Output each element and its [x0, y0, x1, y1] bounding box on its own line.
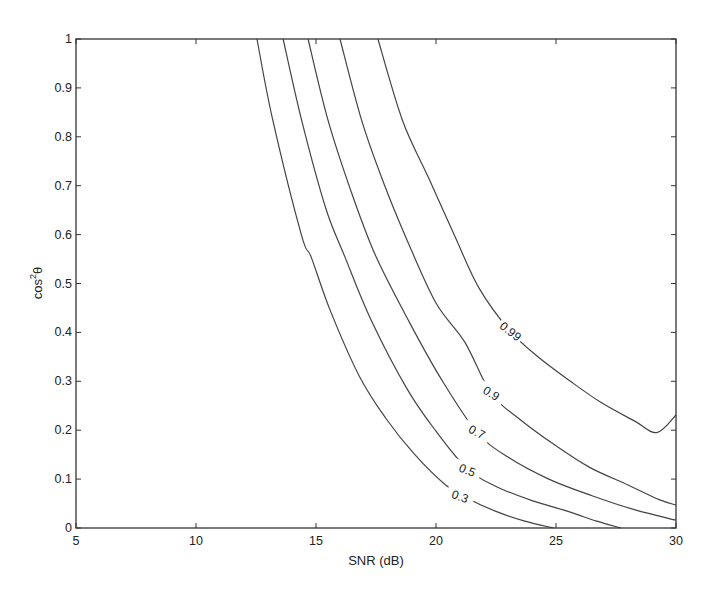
y-tick-label: 0 — [65, 521, 72, 535]
y-tick-label: 0.8 — [55, 130, 72, 144]
contour-line-0_7 — [308, 39, 676, 520]
x-axis-label: SNR (dB) — [348, 553, 404, 568]
contour-line-0_3 — [257, 39, 554, 528]
contour-line-0_99 — [378, 39, 676, 433]
y-tick-label: 0.5 — [55, 277, 72, 291]
contour-line-0_5 — [283, 39, 621, 528]
x-tick-label: 30 — [669, 534, 683, 548]
x-tick-label: 20 — [429, 534, 443, 548]
y-axis-ticks: 00.10.20.30.40.50.60.70.80.91 — [55, 32, 676, 535]
plot-frame — [76, 39, 676, 528]
contour-labels: 0.30.50.70.90.99 — [444, 317, 525, 508]
x-axis-ticks: 51015202530 — [73, 39, 683, 548]
svg-text:cos2θ: cos2θ — [28, 267, 45, 299]
contour-chart: 0.30.50.70.90.99 51015202530 00.10.20.30… — [0, 0, 714, 593]
contour-line-0_9 — [340, 39, 676, 505]
x-tick-label: 5 — [73, 534, 80, 548]
x-tick-label: 15 — [309, 534, 323, 548]
y-tick-label: 1 — [65, 32, 72, 46]
y-axis-label: cos2θ — [28, 267, 45, 299]
y-tick-label: 0.2 — [55, 423, 72, 437]
y-tick-label: 0.9 — [55, 81, 72, 95]
y-tick-label: 0.1 — [55, 472, 72, 486]
y-tick-label: 0.6 — [55, 228, 72, 242]
contour-curves — [257, 39, 676, 528]
y-tick-label: 0.7 — [55, 179, 72, 193]
x-tick-label: 10 — [189, 534, 203, 548]
x-tick-label: 25 — [549, 534, 563, 548]
y-tick-label: 0.4 — [55, 325, 72, 339]
y-tick-label: 0.3 — [55, 374, 72, 388]
